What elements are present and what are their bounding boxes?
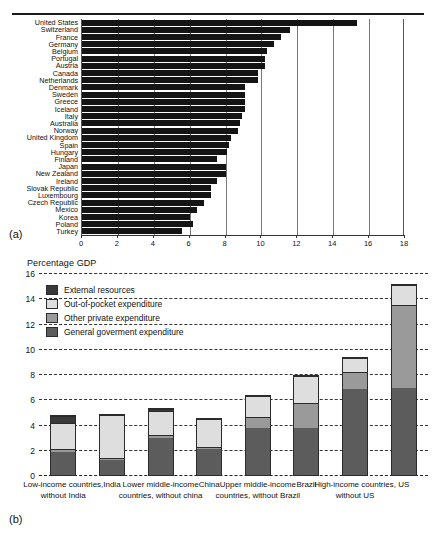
bar-segment-oop [197, 419, 221, 447]
gridline-y-2 [39, 450, 428, 451]
legend-swatch [46, 285, 58, 295]
bar-segment-oop [149, 411, 173, 434]
bar-segment-gov [294, 428, 318, 475]
gridline-y-8 [39, 374, 428, 375]
legend-swatch [46, 313, 58, 323]
x-tick-label: 4 [151, 239, 155, 248]
x-tick-mark [225, 235, 226, 238]
stacked-bar [99, 414, 125, 476]
stacked-bar [293, 375, 319, 476]
bar-segment-gov [246, 428, 270, 475]
gridline-y-16 [39, 273, 428, 274]
legend-item: Out-of-pocket expenditure [46, 297, 226, 310]
bar-segment-oop [343, 358, 367, 372]
x-tick-mark [404, 235, 405, 238]
stacked-bar [391, 284, 417, 476]
panel-a-health-expenditure-oecd: United StatesSwitzerlandFranceGermanyBel… [0, 0, 436, 255]
x-tick-label: 10 [256, 239, 264, 248]
bar-segment-oop [392, 285, 416, 305]
y-tick-label: 12 [26, 320, 35, 330]
panel-b-health-expenditure-income-groups: Percentage GDP 0246810121416Low-income c… [0, 255, 436, 551]
bar-segment-gov [343, 389, 367, 475]
panel-a-plot-area: United StatesSwitzerlandFranceGermanyBel… [81, 19, 404, 235]
panel-b-legend: External resourcesOut-of-pocket expendit… [46, 283, 226, 339]
gridline-y-0 [39, 475, 428, 476]
panel-b-axis-title: Percentage GDP [27, 258, 96, 268]
x-tick-mark [368, 235, 369, 238]
x-tick-mark [81, 235, 82, 238]
panel-a-x-axis: 024681012141618 [81, 235, 404, 236]
gridline-y-4 [39, 425, 428, 426]
x-tick-mark [260, 235, 261, 238]
top-rule [12, 13, 424, 15]
bar-segment-oop [246, 396, 270, 417]
bar [82, 228, 182, 234]
x-tick-label: 18 [400, 239, 408, 248]
legend-label: Other private expenditure [64, 313, 160, 323]
bar-segment-gov [392, 388, 416, 475]
stacked-bar [196, 418, 222, 476]
gridline-y-6 [39, 399, 428, 400]
x-tick-label: 6 [187, 239, 191, 248]
legend-swatch [46, 299, 58, 309]
x-tick-mark [296, 235, 297, 238]
bar-segment-oop [294, 376, 318, 403]
y-tick-label: 2 [30, 446, 35, 456]
x-tick-label: 8 [222, 239, 226, 248]
legend-item: Other private expenditure [46, 311, 226, 324]
panel-b-label: (b) [9, 513, 22, 525]
stacked-bar [342, 357, 368, 476]
bar-category-label: Turkey [56, 227, 78, 236]
y-tick-label: 4 [30, 421, 35, 431]
legend-item: External resources [46, 283, 226, 296]
x-tick-mark [189, 235, 190, 238]
legend-label: Out-of-pocket expenditure [64, 299, 162, 309]
legend-label: General goverment expenditure [64, 327, 184, 337]
bar-segment-oop [100, 415, 124, 458]
bar-segment-gov [149, 438, 173, 475]
x-tick-label: 0 [79, 239, 83, 248]
figure-root: United StatesSwitzerlandFranceGermanyBel… [0, 0, 436, 551]
category-label: US [352, 480, 436, 491]
legend-item: General goverment expenditure [46, 325, 226, 338]
bar-segment-otherpriv [246, 417, 270, 428]
bar-segment-otherpriv [294, 403, 318, 428]
bar-segment-oop [51, 423, 75, 450]
stacked-bar [245, 395, 271, 476]
y-tick-label: 8 [30, 370, 35, 380]
y-tick-label: 16 [26, 269, 35, 279]
x-tick-label: 16 [364, 239, 372, 248]
x-tick-label: 2 [115, 239, 119, 248]
panel-a-label: (a) [9, 228, 22, 240]
bar-segment-gov [100, 460, 124, 475]
bar-segment-gov [197, 449, 221, 475]
x-tick-mark [332, 235, 333, 238]
stacked-bar [50, 415, 76, 476]
y-tick-label: 10 [26, 345, 35, 355]
legend-swatch [46, 327, 58, 337]
x-tick-mark [153, 235, 154, 238]
bar-segment-otherpriv [343, 372, 367, 389]
stacked-bar [148, 408, 174, 476]
y-tick-label: 6 [30, 395, 35, 405]
bar-segment-otherpriv [392, 305, 416, 387]
gridline-y-10 [39, 349, 428, 350]
y-tick-label: 14 [26, 294, 35, 304]
x-tick-label: 12 [292, 239, 300, 248]
bar-segment-gov [51, 452, 75, 475]
x-tick-mark [117, 235, 118, 238]
x-tick-label: 14 [328, 239, 336, 248]
legend-label: External resources [64, 285, 135, 295]
